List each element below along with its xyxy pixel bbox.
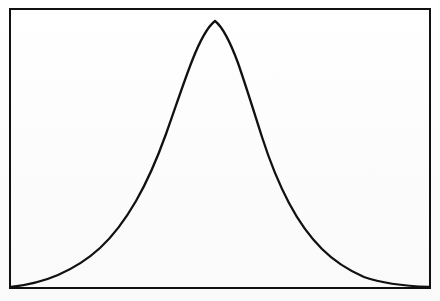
bell-curve	[11, 21, 429, 287]
plot-frame	[10, 9, 430, 288]
figure-root	[0, 0, 440, 301]
bell-curve-plot	[0, 0, 440, 301]
